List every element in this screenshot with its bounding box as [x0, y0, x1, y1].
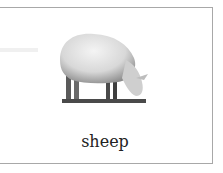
background-smudge	[0, 48, 38, 52]
picture-card: sheep	[0, 7, 213, 164]
card-label: sheep	[0, 132, 212, 151]
sheep-image	[56, 30, 152, 104]
